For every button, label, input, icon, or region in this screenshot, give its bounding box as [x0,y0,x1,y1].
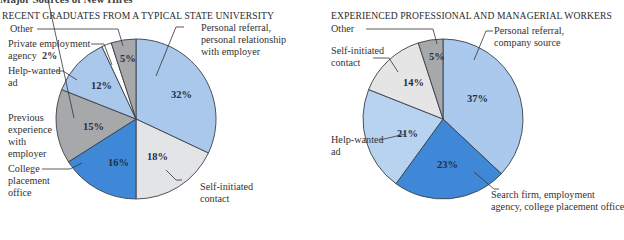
label-left-private-line1: Private employment [8,38,90,50]
label-left-other: Other [10,23,33,35]
label-left-self: Self-initiated contact [200,181,253,205]
label-left-previous-line1: Previous [8,112,52,124]
label-right-referral-line2: company source [494,37,564,49]
label-left-referral-line3: with employer [201,46,286,58]
label-right-self: Self-initiated contact [331,45,384,69]
label-right-search-line2: agency, college placement office [491,201,624,213]
label-left-self-line2: contact [200,193,253,205]
label-left-previous-line3: with [8,136,52,148]
label-left-helpwanted: Help-wanted ad [8,65,61,89]
label-left-college-line3: office [8,187,50,199]
label-left-previous-line2: experience [8,124,52,136]
label-right-referral-line1: Personal referral, [494,25,564,37]
pct-left-other: 5% [120,53,136,64]
pct-left-college: 16% [108,157,129,168]
label-left-college: College placement office [8,163,50,199]
pct-left-self: 18% [147,151,168,162]
label-left-private-line2: agency 2% [8,50,90,62]
label-left-self-line1: Self-initiated [200,181,253,193]
pct-left-referral: 32% [171,89,192,100]
label-right-helpwanted-line2: ad [331,146,384,158]
pct-right-search: 23% [437,159,458,170]
label-left-referral-line1: Personal referral, [201,22,286,34]
pct-right-helpwanted: 21% [397,128,418,139]
label-right-helpwanted-line1: Help-wanted [331,134,384,146]
pct-right-other: 5% [429,51,445,62]
label-left-college-line2: placement [8,175,50,187]
label-right-self-line1: Self-initiated [331,45,384,57]
pie-experienced-workers [363,39,523,199]
label-right-other: Other [331,23,354,35]
label-left-private: Private employment agency 2% [8,38,90,62]
pie-recent-graduates [56,39,216,199]
label-left-private-text: agency [8,50,37,61]
pct-right-self: 14% [403,77,424,88]
label-right-helpwanted: Help-wanted ad [331,134,384,158]
label-left-previous: Previous experience with employer [8,112,52,160]
label-left-referral-line2: personal relationship [201,34,286,46]
pct-left-helpwanted: 12% [91,80,112,91]
label-left-previous-line4: employer [8,148,52,160]
label-left-helpwanted-line2: ad [8,77,61,89]
label-left-helpwanted-line1: Help-wanted [8,65,61,77]
label-left-referral: Personal referral, personal relationship… [201,22,286,58]
label-right-search: Search firm, employment agency, college … [491,189,624,213]
label-right-search-line1: Search firm, employment [491,189,624,201]
label-left-college-line1: College [8,163,50,175]
label-right-referral: Personal referral, company source [494,25,564,49]
pct-left-previous: 15% [83,121,104,132]
label-right-self-line2: contact [331,57,384,69]
pct-right-referral: 37% [467,93,488,104]
label-left-private-pct: 2% [42,50,57,61]
